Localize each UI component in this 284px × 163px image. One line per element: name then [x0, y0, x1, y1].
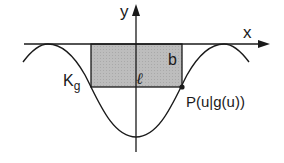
y-axis-label: y: [120, 2, 129, 21]
point-p-label: P(u|g(u)): [186, 93, 245, 110]
x-axis-arrow-icon: [258, 40, 270, 48]
rect-height-label: b: [168, 51, 177, 68]
rect-width-label: ℓ: [136, 70, 143, 87]
curve-label: Kg: [63, 72, 80, 93]
x-axis-label: x: [243, 23, 252, 42]
y-axis-arrow-icon: [132, 4, 140, 16]
diagram-canvas: x y Kg b ℓ P(u|g(u)): [0, 0, 284, 163]
point-p-marker: [179, 84, 184, 89]
